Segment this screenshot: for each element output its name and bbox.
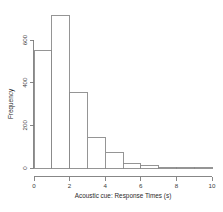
x-axis-title: Acoustic cue: Response Times (s) xyxy=(75,192,172,200)
plot-canvas: 0200400600 0246810 Frequency Acoustic cu… xyxy=(0,0,223,212)
y-axis-title: Frequency xyxy=(7,88,15,119)
x-axis-tick-labels: 0246810 xyxy=(32,182,216,189)
x-tick-label: 10 xyxy=(209,182,216,189)
x-axis xyxy=(34,177,212,181)
histogram-bar xyxy=(123,164,141,168)
x-tick-label: 0 xyxy=(32,182,36,189)
y-tick-label: 0 xyxy=(21,166,28,170)
histogram-bar xyxy=(34,51,52,168)
y-axis-tick-labels: 0200400600 xyxy=(21,34,28,169)
y-tick-label: 600 xyxy=(21,34,28,45)
histogram-bar xyxy=(141,166,159,168)
x-axis-ticks xyxy=(34,177,212,181)
x-tick-label: 2 xyxy=(68,182,72,189)
histogram-bar xyxy=(70,92,88,168)
histogram-figure: 0200400600 0246810 Frequency Acoustic cu… xyxy=(0,0,223,212)
x-tick-label: 8 xyxy=(175,182,179,189)
x-tick-label: 4 xyxy=(103,182,107,189)
histogram-bar xyxy=(87,137,105,168)
y-axis xyxy=(30,40,34,168)
y-tick-label: 400 xyxy=(21,77,28,88)
bars-group xyxy=(34,15,212,168)
y-axis-ticks xyxy=(30,40,34,168)
x-tick-label: 6 xyxy=(139,182,143,189)
y-tick-label: 200 xyxy=(21,120,28,131)
histogram-bar xyxy=(52,15,70,168)
histogram-bar xyxy=(105,152,123,168)
